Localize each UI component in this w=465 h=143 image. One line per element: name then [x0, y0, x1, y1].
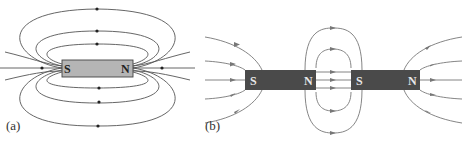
north-pole-label-b-right: N: [408, 74, 417, 88]
bar-magnet-a: S N: [62, 60, 133, 77]
bar-magnet-b-right: S N: [351, 70, 420, 90]
magnetic-field-diagram: S N: [0, 0, 465, 143]
north-pole-label-a: N: [121, 62, 130, 76]
south-pole-label-a: S: [64, 62, 71, 76]
north-pole-label-b-left: N: [304, 74, 313, 88]
south-pole-label-b-right: S: [356, 74, 363, 88]
panel-a-label: (a): [6, 118, 20, 134]
bar-magnet-b-left: S N: [245, 70, 316, 90]
south-pole-label-b-left: S: [250, 74, 257, 88]
panel-b-label: (b): [205, 118, 220, 134]
